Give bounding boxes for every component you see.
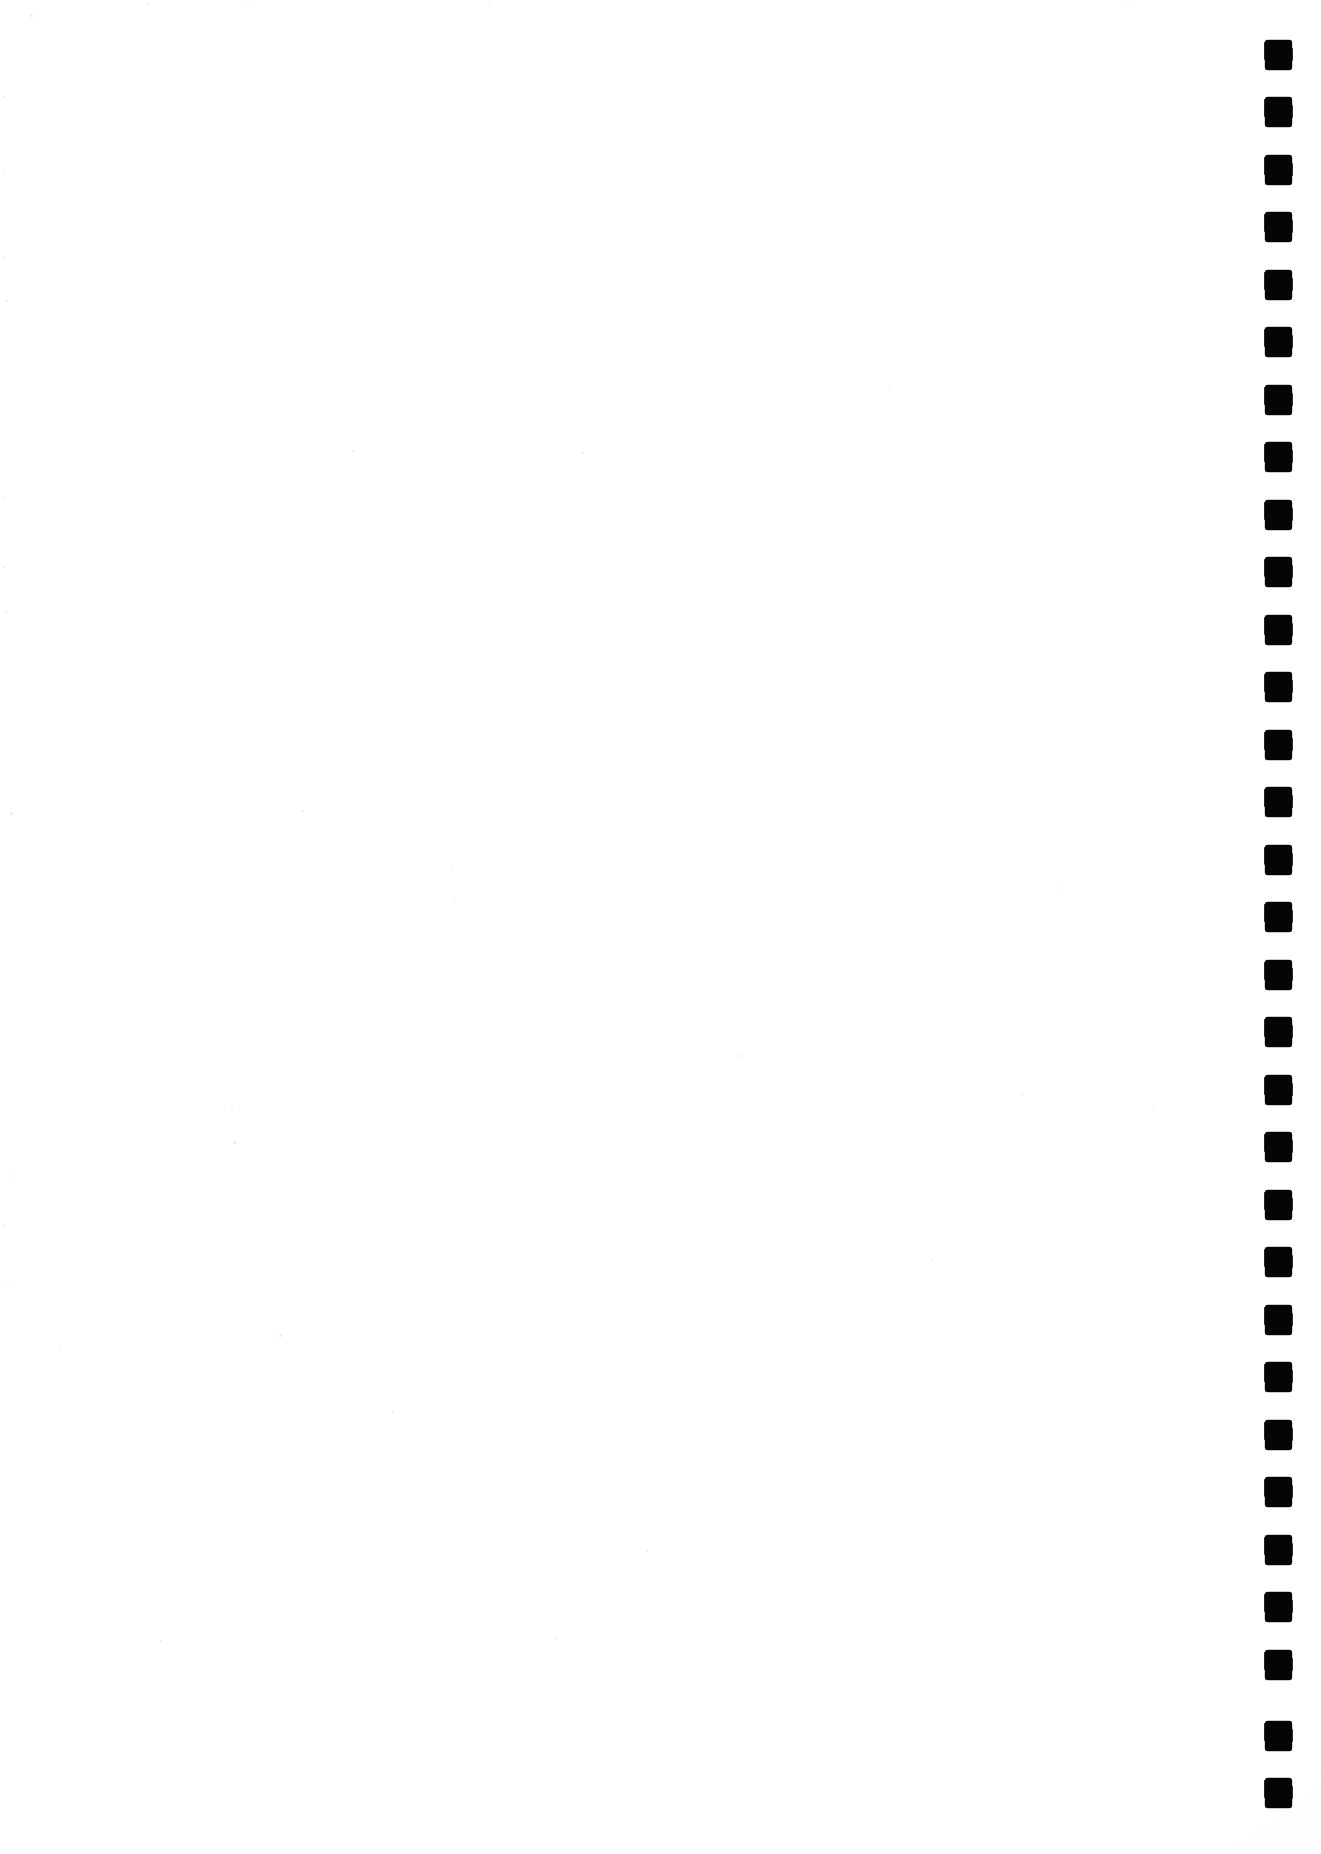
page-body-text xyxy=(60,60,1200,1760)
scanned-page xyxy=(0,0,1321,1854)
